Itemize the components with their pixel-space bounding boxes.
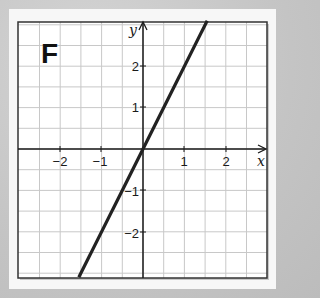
y-tick-label: −1	[124, 184, 139, 199]
coordinate-graph: F −2 −1 1 2 2 1 −1 −2 x y	[0, 0, 286, 298]
y-tick-label: −2	[124, 226, 139, 241]
x-tick-label: 2	[222, 154, 229, 169]
x-tick-label: 1	[180, 154, 187, 169]
x-tick-label: −2	[53, 154, 68, 169]
x-axis-label: x	[257, 153, 265, 169]
y-tick-label: 2	[132, 59, 139, 74]
y-axis-label: y	[128, 22, 138, 38]
x-tick-label: −1	[93, 154, 108, 169]
y-tick-label: 1	[132, 100, 139, 115]
panel-letter: F	[41, 38, 58, 69]
